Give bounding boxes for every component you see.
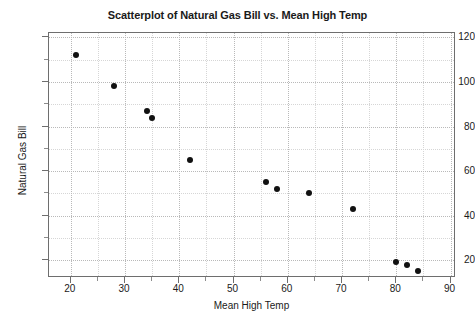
x-tick-mark <box>70 277 71 283</box>
y-tick-label: 60 <box>443 165 475 176</box>
data-point <box>306 190 312 196</box>
data-point <box>149 115 155 121</box>
x-tick-mark-minor <box>97 277 98 281</box>
x-tick-mark-minor <box>314 277 315 281</box>
x-tick-mark <box>341 277 342 283</box>
y-tick-mark <box>42 259 48 260</box>
y-tick-label: 120 <box>443 31 475 42</box>
data-point <box>144 108 150 114</box>
gridline-vertical <box>423 33 424 276</box>
y-tick-label: 40 <box>443 209 475 220</box>
data-point <box>187 157 193 163</box>
gridline-vertical <box>315 33 316 276</box>
x-tick-mark-minor <box>260 277 261 281</box>
x-tick-mark <box>450 277 451 283</box>
gridline-horizontal <box>49 149 454 150</box>
x-axis-title: Mean High Temp <box>48 300 455 311</box>
gridline-vertical <box>206 33 207 276</box>
scatterplot-chart: Scatterplot of Natural Gas Bill vs. Mean… <box>0 0 475 330</box>
x-tick-mark <box>395 277 396 283</box>
y-tick-label: 20 <box>443 254 475 265</box>
y-tick-mark-minor <box>44 237 48 238</box>
gridline-vertical <box>396 33 397 276</box>
y-axis-title: Natural Gas Bill <box>17 96 28 226</box>
x-tick-label: 30 <box>104 283 144 294</box>
x-tick-mark <box>124 277 125 283</box>
gridline-vertical <box>261 33 262 276</box>
gridline-horizontal <box>49 127 454 128</box>
y-tick-mark-minor <box>44 148 48 149</box>
x-tick-label: 70 <box>321 283 361 294</box>
y-tick-mark <box>42 215 48 216</box>
gridline-horizontal <box>49 104 454 105</box>
x-tick-mark <box>178 277 179 283</box>
x-tick-mark-minor <box>205 277 206 281</box>
x-tick-label: 80 <box>375 283 415 294</box>
x-tick-mark <box>233 277 234 283</box>
gridline-horizontal <box>49 37 454 38</box>
y-tick-mark <box>42 126 48 127</box>
y-tick-label: 80 <box>443 120 475 131</box>
gridline-vertical <box>342 33 343 276</box>
gridline-vertical <box>152 33 153 276</box>
data-point <box>111 83 117 89</box>
x-tick-label: 20 <box>50 283 90 294</box>
data-point <box>263 179 269 185</box>
gridline-vertical <box>98 33 99 276</box>
gridline-horizontal <box>49 171 454 172</box>
chart-title: Scatterplot of Natural Gas Bill vs. Mean… <box>0 9 475 21</box>
gridline-horizontal <box>49 82 454 83</box>
x-tick-mark-minor <box>151 277 152 281</box>
data-point <box>415 268 421 274</box>
plot-area <box>48 32 455 277</box>
gridline-horizontal <box>49 216 454 217</box>
data-point <box>350 206 356 212</box>
gridline-vertical <box>288 33 289 276</box>
gridline-vertical <box>179 33 180 276</box>
y-tick-mark <box>42 36 48 37</box>
x-tick-label: 50 <box>213 283 253 294</box>
x-tick-label: 40 <box>158 283 198 294</box>
data-point <box>274 186 280 192</box>
x-tick-label: 90 <box>430 283 470 294</box>
y-tick-mark-minor <box>44 59 48 60</box>
y-tick-mark-minor <box>44 192 48 193</box>
gridline-vertical <box>234 33 235 276</box>
y-tick-mark <box>42 170 48 171</box>
gridline-horizontal <box>49 238 454 239</box>
y-tick-label: 100 <box>443 76 475 87</box>
y-tick-mark-minor <box>44 103 48 104</box>
gridline-vertical <box>451 33 452 276</box>
data-point <box>393 259 399 265</box>
gridline-horizontal <box>49 193 454 194</box>
x-tick-label: 60 <box>267 283 307 294</box>
gridline-vertical <box>125 33 126 276</box>
data-point <box>73 52 79 58</box>
y-tick-mark <box>42 81 48 82</box>
x-tick-mark <box>287 277 288 283</box>
x-tick-mark-minor <box>422 277 423 281</box>
x-tick-mark-minor <box>368 277 369 281</box>
gridline-vertical <box>71 33 72 276</box>
gridline-vertical <box>369 33 370 276</box>
data-point <box>404 262 410 268</box>
gridline-horizontal <box>49 60 454 61</box>
